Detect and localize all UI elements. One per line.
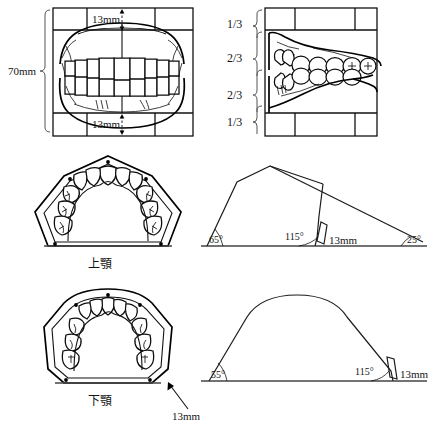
proportion-brackets: [253, 10, 262, 134]
segment-label-upper: 13mm: [329, 234, 358, 246]
angle-label-left-upper: 65°: [209, 234, 223, 245]
lower-dimension-marker: [120, 114, 125, 135]
figure-sheet: 70mm 13mm: [0, 0, 434, 423]
mandibular-left-posterior-teeth: [62, 318, 84, 369]
panel-maxillary-geometry: 65° 115° 25° 13mm: [195, 146, 434, 279]
mandibular-arch-label: 下顎: [88, 394, 112, 408]
panel-maxillary-arch: 上顎: [0, 146, 217, 279]
height-dimension-label: 70mm: [8, 65, 37, 77]
proportion-label-1: 1/3: [227, 17, 242, 31]
angle-label-right-upper: 25°: [407, 234, 421, 245]
proportion-label-2: 2/3: [227, 51, 242, 65]
maxillary-geometry-polygon: [207, 166, 423, 246]
mandibular-right-posterior-teeth: [132, 318, 154, 369]
proportion-label-4: 1/3: [227, 115, 242, 129]
lateral-upper-teeth: [274, 50, 376, 75]
maxillary-arch-label: 上顎: [88, 257, 112, 271]
angle-label-center-upper: 115°: [285, 231, 304, 242]
angle-arcs-upper: [215, 229, 410, 246]
maxillary-right-posterior-teeth: [137, 186, 162, 235]
segment-label-lower: 13mm: [400, 368, 429, 380]
mandibular-anterior-teeth: [79, 298, 137, 322]
panel-mandibular-geometry: 55° 115° 13mm: [195, 279, 434, 423]
angle-label-center-lower: 115°: [355, 366, 374, 377]
proportion-label-3: 2/3: [227, 88, 242, 102]
panel-front-view: 70mm 13mm: [0, 0, 217, 146]
palatal-inner-contour: [68, 185, 148, 241]
height-bracket: [40, 10, 50, 132]
angle-label-left-lower: 55°: [211, 369, 225, 380]
panel-mandibular-arch: 下顎 13mm: [0, 279, 217, 423]
maxillary-left-posterior-teeth: [54, 186, 79, 235]
maxillary-anterior-teeth: [74, 166, 143, 190]
panel-lateral-view: 1/3 2/3 2/3 1/3: [217, 0, 434, 146]
mandibular-callout-arrow: [168, 382, 189, 409]
